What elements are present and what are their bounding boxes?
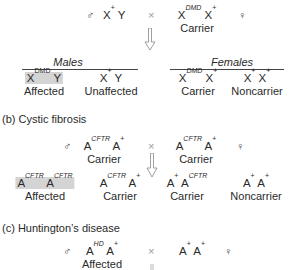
mother-label: Carrier (178, 22, 217, 35)
male-symbol: ♂ (63, 245, 71, 257)
father-block: ACFTR A+ Carrier (84, 140, 125, 166)
offspring-a-1: XDMD Y Affected (24, 72, 64, 98)
cross-symbol: × (148, 140, 154, 152)
down-arrow-icon (146, 153, 158, 179)
male-symbol: ♂ (86, 9, 94, 21)
father-block: AHD A+ Affected (82, 245, 122, 270)
down-arrow-icon (144, 28, 156, 52)
offspring-a-4: X+ X+ Noncarrier (231, 72, 282, 98)
offspring-b-2: ACFTR A+ Carrier (100, 177, 141, 203)
offspring-b-1: ACFTR ACFTR Affected (15, 177, 74, 203)
mother-block: ACFTR A+ Carrier (176, 140, 217, 166)
offspring-b-4: A+ A+ Noncarrier (230, 177, 281, 203)
offspring-a-3: XDMD X+ Carrier (179, 72, 218, 98)
affected-highlight: ACFTR ACFTR (15, 177, 74, 189)
cross-symbol: × (148, 245, 154, 257)
panel-c-title: (c) Huntington’s disease (2, 222, 120, 234)
offspring-b-3: A+ ACFTR Carrier (167, 177, 208, 203)
cross-symbol: × (148, 9, 154, 21)
panel-b-title: (b) Cystic fibrosis (2, 113, 86, 125)
mother-block: A+ A+ (179, 245, 205, 258)
female-symbol: ♀ (236, 140, 244, 152)
father-genotype: X+ Y (103, 9, 125, 22)
males-header: Males (53, 56, 82, 68)
male-symbol: ♂ (63, 140, 71, 152)
mother-block: XDMD X+ Carrier (178, 9, 217, 35)
down-arrow-icon (150, 264, 154, 270)
affected-highlight: XDMD Y (25, 72, 63, 84)
mother-genotype: XDMD X+ (178, 9, 217, 22)
female-symbol: ♀ (224, 245, 232, 257)
female-symbol: ♀ (238, 9, 246, 21)
offspring-a-2: X+ Y Unaffected (84, 72, 137, 98)
